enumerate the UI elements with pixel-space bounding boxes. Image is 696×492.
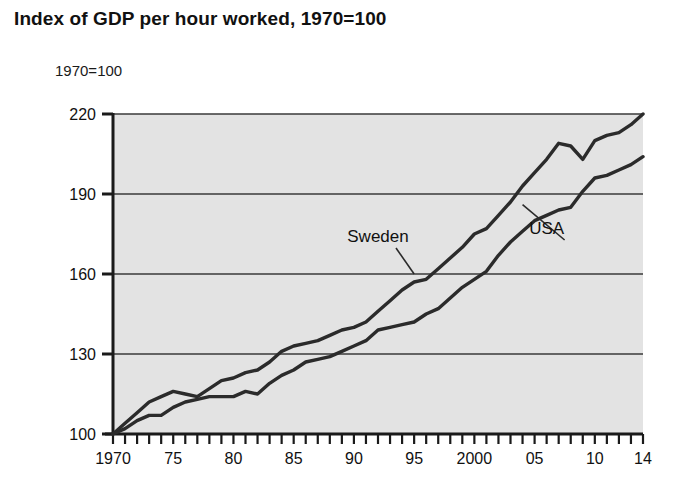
- y-tick-label: 130: [69, 346, 96, 363]
- x-tick-label: 10: [586, 450, 604, 467]
- x-tick-label: 80: [225, 450, 243, 467]
- x-tick-label: 1970: [95, 450, 131, 467]
- y-tick-label: 160: [69, 266, 96, 283]
- x-tick-label: 05: [526, 450, 544, 467]
- y-tick-label: 220: [69, 106, 96, 123]
- y-axis-tick-labels: 100130160190220: [69, 106, 96, 443]
- x-tick-label: 2000: [457, 450, 493, 467]
- y-tick-label: 190: [69, 186, 96, 203]
- y-tick-label: 100: [69, 426, 96, 443]
- x-tick-label: 75: [164, 450, 182, 467]
- plot-area: 100130160190220 197075808590952000051014…: [0, 0, 696, 492]
- x-tick-label: 85: [285, 450, 303, 467]
- series-label-usa: USA: [529, 219, 565, 238]
- x-tick-label: 14: [634, 450, 652, 467]
- series-label-sweden: Sweden: [347, 227, 408, 246]
- x-tick-label: 90: [345, 450, 363, 467]
- chart-figure: Index of GDP per hour worked, 1970=100 1…: [0, 0, 696, 492]
- x-tick-label: 95: [405, 450, 423, 467]
- x-axis-tick-labels: 197075808590952000051014: [95, 450, 652, 467]
- line-chart-svg: 100130160190220 197075808590952000051014…: [0, 0, 696, 492]
